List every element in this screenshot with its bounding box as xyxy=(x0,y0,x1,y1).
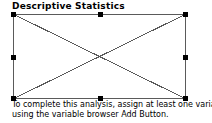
resize-handle-top-right[interactable] xyxy=(183,12,188,17)
chart-placeholder[interactable] xyxy=(13,14,186,99)
resize-handle-middle-left[interactable] xyxy=(11,55,16,60)
page-title: Descriptive Statistics xyxy=(12,1,125,12)
instruction-line-1: To complete this analysis, assign at lea… xyxy=(12,100,210,110)
instruction-text: To complete this analysis, assign at lea… xyxy=(12,100,210,120)
resize-handle-middle-right[interactable] xyxy=(183,55,188,60)
output-viewer-canvas: Descriptive Statistics To complete this … xyxy=(0,0,212,123)
instruction-line-2: using the variable browser Add Button. xyxy=(12,110,210,120)
resize-handle-top-center[interactable] xyxy=(98,12,103,17)
resize-handle-top-left[interactable] xyxy=(11,12,16,17)
placeholder-cross-icon xyxy=(13,14,186,99)
